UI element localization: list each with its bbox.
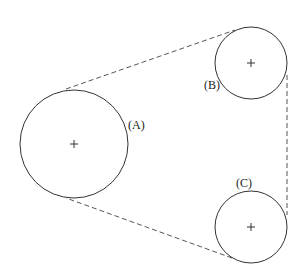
center-cross-icon: [70, 140, 78, 148]
center-cross-icon: [247, 59, 255, 67]
pulley-label: (A): [128, 118, 145, 132]
pulley-c: (C): [215, 176, 287, 263]
pulleys: (A)(B)(C): [20, 27, 287, 263]
belt-segment-c-a: [66, 198, 232, 258]
pulley-diagram: (A)(B)(C): [0, 0, 307, 278]
center-cross-icon: [247, 223, 255, 231]
pulley-label: (C): [236, 176, 252, 190]
pulley-b: (B): [204, 27, 287, 99]
pulley-a: (A): [20, 90, 145, 198]
pulley-label: (B): [204, 78, 220, 92]
belt-segments: [66, 30, 287, 258]
diagram-canvas: (A)(B)(C): [0, 0, 307, 278]
